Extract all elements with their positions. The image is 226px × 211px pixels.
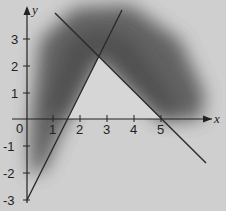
origin-label: 0 bbox=[16, 121, 23, 136]
y-tick-label: 2 bbox=[11, 59, 18, 74]
y-tick-label: -1 bbox=[3, 139, 15, 154]
x-tick-label: 5 bbox=[157, 122, 164, 137]
y-axis-label: y bbox=[30, 2, 38, 17]
y-tick-label: -3 bbox=[3, 193, 15, 208]
y-tick-label: 1 bbox=[11, 86, 18, 101]
y-tick-label: -2 bbox=[3, 166, 15, 181]
inequality-graph: x y 0 1 2 3 4 5 3 2 1 -1 -2 -3 bbox=[0, 0, 226, 211]
y-tick-label: 3 bbox=[11, 32, 18, 47]
x-tick-label: 3 bbox=[103, 122, 110, 137]
x-tick-label: 1 bbox=[49, 122, 56, 137]
x-tick-label: 2 bbox=[76, 122, 83, 137]
x-axis-label: x bbox=[213, 111, 220, 126]
x-tick-label: 4 bbox=[130, 122, 137, 137]
